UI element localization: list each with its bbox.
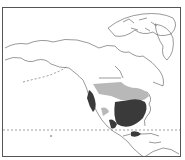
map-frame — [2, 7, 181, 157]
north-america-range-map — [3, 8, 181, 157]
map-caption-clipped — [0, 0, 185, 5]
coastline-outlines — [5, 14, 179, 158]
